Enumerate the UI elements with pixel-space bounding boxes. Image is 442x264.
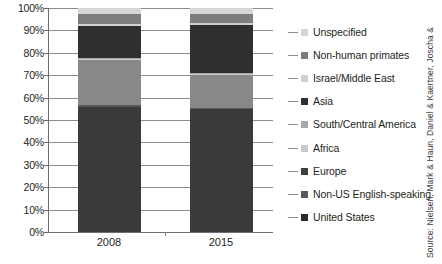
bar-segment[interactable] xyxy=(78,105,141,106)
y-axis-tick-label: 80% xyxy=(4,48,44,59)
y-axis-tick-mark xyxy=(44,210,48,211)
legend-item-label: Non-US English-speaking xyxy=(313,189,431,200)
legend-item-label: Europe xyxy=(313,166,346,177)
legend-leader-line-icon xyxy=(288,55,298,56)
bar-segment[interactable] xyxy=(78,26,141,58)
y-axis-tick-mark xyxy=(44,98,48,99)
y-axis-tick-mark xyxy=(44,232,48,233)
legend-color-swatch-icon xyxy=(301,52,308,59)
y-axis-tick-label: 100% xyxy=(4,3,44,14)
bar-segment[interactable] xyxy=(190,23,253,25)
y-axis-tick-label: 90% xyxy=(4,25,44,36)
legend-leader-line-icon xyxy=(288,101,298,102)
bar-segment[interactable] xyxy=(78,107,141,232)
legend-item-label: Asia xyxy=(313,96,333,107)
bar-segment[interactable] xyxy=(78,59,141,60)
legend-leader-line-icon xyxy=(288,148,298,149)
y-axis-tick-mark xyxy=(44,53,48,54)
bar-segment[interactable] xyxy=(190,108,253,109)
chart-figure: 100%90%80%70%60%50%40%30%20%10%0% 200820… xyxy=(0,0,442,264)
stacked-bar[interactable] xyxy=(78,8,141,232)
bar-segment[interactable] xyxy=(78,14,141,24)
y-axis-line xyxy=(48,8,49,233)
y-axis-tick-label: 40% xyxy=(4,137,44,148)
bar-segment[interactable] xyxy=(190,74,253,75)
legend-item-label: Unspecified xyxy=(313,27,367,38)
y-axis-tick-mark xyxy=(44,30,48,31)
bar-segment[interactable] xyxy=(190,75,253,107)
y-axis-tick-label: 0% xyxy=(4,227,44,238)
legend-item[interactable]: Israel/Middle East xyxy=(288,71,395,85)
y-axis-tick-mark xyxy=(44,187,48,188)
bar-segment[interactable] xyxy=(78,58,141,59)
legend-leader-line-icon xyxy=(288,124,298,125)
stacked-bar[interactable] xyxy=(190,8,253,232)
y-axis-tick-label: 10% xyxy=(4,205,44,216)
y-axis-tick-mark xyxy=(44,75,48,76)
plot-box xyxy=(48,8,273,232)
legend-item[interactable]: United States xyxy=(288,211,375,225)
chart-legend: UnspecifiedNon-human primatesIsrael/Midd… xyxy=(288,0,418,264)
x-axis-tick-label: 2008 xyxy=(64,236,154,248)
legend-color-swatch-icon xyxy=(301,145,308,152)
bar-segment[interactable] xyxy=(190,73,253,74)
y-axis-tick-mark xyxy=(44,120,48,121)
legend-color-swatch-icon xyxy=(301,98,308,105)
x-axis-line xyxy=(44,232,273,233)
x-axis-tick-label: 2015 xyxy=(176,236,266,248)
legend-item[interactable]: Non-US English-speaking xyxy=(288,187,431,201)
legend-item-label: Israel/Middle East xyxy=(313,73,395,84)
legend-item-label: United States xyxy=(313,212,375,223)
legend-item-label: Non-human primates xyxy=(313,50,409,61)
legend-leader-line-icon xyxy=(288,78,298,79)
bar-segment[interactable] xyxy=(190,25,253,74)
y-axis-labels: 100%90%80%70%60%50%40%30%20%10%0% xyxy=(0,0,44,264)
chart-plot-region: 100%90%80%70%60%50%40%30%20%10%0% 200820… xyxy=(0,0,290,264)
legend-color-swatch-icon xyxy=(301,168,308,175)
bar-segment[interactable] xyxy=(190,109,253,232)
legend-leader-line-icon xyxy=(288,171,298,172)
y-axis-tick-label: 20% xyxy=(4,182,44,193)
source-attribution: Source: Nielsen, Mark & Haun, Daniel & K… xyxy=(425,0,441,264)
legend-item[interactable]: Asia xyxy=(288,95,333,109)
x-axis-tick-mark xyxy=(165,232,166,236)
y-axis-tick-label: 70% xyxy=(4,70,44,81)
y-axis-tick-label: 50% xyxy=(4,115,44,126)
legend-item[interactable]: Europe xyxy=(288,164,346,178)
source-text: Source: Nielsen, Mark & Haun, Daniel & K… xyxy=(425,27,435,258)
legend-item[interactable]: Non-human primates xyxy=(288,48,409,62)
legend-color-swatch-icon xyxy=(301,191,308,198)
legend-color-swatch-icon xyxy=(301,29,308,36)
bar-segment[interactable] xyxy=(190,14,253,23)
y-axis-tick-mark xyxy=(44,165,48,166)
y-axis-tick-label: 30% xyxy=(4,160,44,171)
legend-leader-line-icon xyxy=(288,32,298,33)
legend-item-label: Africa xyxy=(313,143,339,154)
legend-item-label: South/Central America xyxy=(313,119,416,130)
legend-leader-line-icon xyxy=(288,217,298,218)
bar-segment[interactable] xyxy=(78,60,141,106)
y-axis-tick-mark xyxy=(44,142,48,143)
bar-segment[interactable] xyxy=(78,24,141,26)
bar-segment[interactable] xyxy=(190,8,253,14)
legend-item[interactable]: Unspecified xyxy=(288,25,367,39)
legend-color-swatch-icon xyxy=(301,121,308,128)
legend-leader-line-icon xyxy=(288,194,298,195)
legend-color-swatch-icon xyxy=(301,214,308,221)
y-axis-tick-mark xyxy=(44,8,48,9)
y-axis-tick-label: 60% xyxy=(4,93,44,104)
legend-item[interactable]: Africa xyxy=(288,141,339,155)
bar-segment[interactable] xyxy=(78,8,141,14)
legend-item[interactable]: South/Central America xyxy=(288,118,416,132)
legend-color-swatch-icon xyxy=(301,75,308,82)
